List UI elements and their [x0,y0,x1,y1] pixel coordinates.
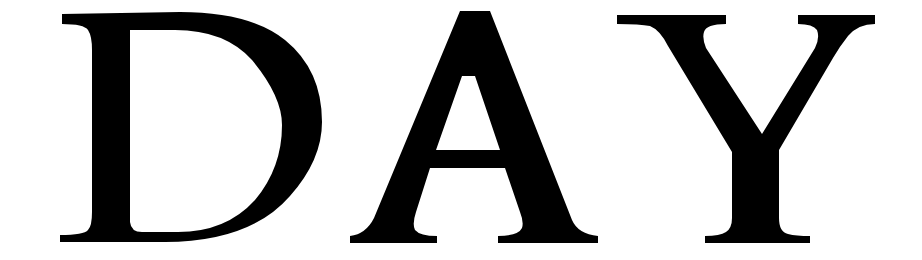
letter-y [617,15,875,243]
letter-d [60,12,322,242]
word-day: DAY [0,0,922,260]
letter-a [350,11,598,243]
